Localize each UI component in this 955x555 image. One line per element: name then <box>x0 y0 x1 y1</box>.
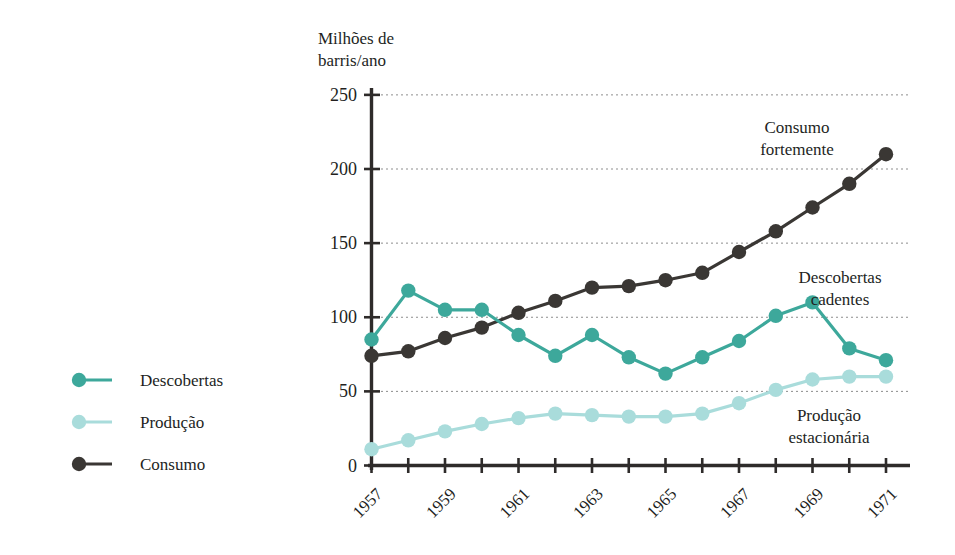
data-point <box>438 331 452 345</box>
data-point <box>732 334 746 348</box>
data-point <box>842 369 856 383</box>
data-point <box>364 332 378 346</box>
data-point <box>475 303 489 317</box>
legend-item-consumo[interactable]: Consumo <box>72 455 205 474</box>
y-tick-label-100: 100 <box>330 307 357 327</box>
data-point <box>401 433 415 447</box>
legend-swatch-marker <box>72 457 86 471</box>
y-axis-tick-labels: 050100150200250 <box>330 85 357 476</box>
data-point <box>732 396 746 410</box>
data-point <box>805 200 819 214</box>
data-point <box>695 350 709 364</box>
data-point <box>364 442 378 456</box>
data-point <box>695 266 709 280</box>
data-point <box>879 147 893 161</box>
data-point <box>438 424 452 438</box>
data-point <box>401 283 415 297</box>
descobertas-annotation-line1: Descobertas <box>798 268 881 287</box>
x-tick-label-1965: 1965 <box>643 484 680 521</box>
data-point <box>475 320 489 334</box>
legend-item-produ--o[interactable]: Produção <box>72 413 204 432</box>
consumo-annotation-line2: fortemente <box>760 140 834 159</box>
y-tick-label-50: 50 <box>339 381 357 401</box>
data-point <box>658 409 672 423</box>
y-tick-label-200: 200 <box>330 159 357 179</box>
data-point <box>805 372 819 386</box>
legend-label: Consumo <box>140 455 205 474</box>
series-line <box>372 154 887 356</box>
producao-annotation-line2: estacionária <box>788 428 870 447</box>
consumo-annotation: Consumo fortemente <box>760 118 834 159</box>
chart-container: Milhões de barris/ano 050100150200250 19… <box>0 0 955 555</box>
data-point <box>548 349 562 363</box>
producao-annotation: Produção estacionária <box>788 406 870 447</box>
data-point <box>732 245 746 259</box>
legend-swatch-marker <box>72 373 86 387</box>
y-axis-title-line1: Milhões de <box>318 29 394 48</box>
data-point <box>438 303 452 317</box>
data-point <box>511 306 525 320</box>
data-point <box>879 369 893 383</box>
chart-legend: DescobertasProduçãoConsumo <box>72 371 223 474</box>
data-point <box>879 353 893 367</box>
data-point <box>695 406 709 420</box>
y-tick-label-250: 250 <box>330 85 357 105</box>
data-point <box>622 350 636 364</box>
x-tick-label-1971: 1971 <box>863 484 900 521</box>
data-point <box>585 280 599 294</box>
data-point <box>585 408 599 422</box>
data-point <box>658 273 672 287</box>
data-point <box>475 417 489 431</box>
legend-swatch-marker <box>72 415 86 429</box>
data-point <box>548 294 562 308</box>
data-point <box>658 366 672 380</box>
legend-item-descobertas[interactable]: Descobertas <box>72 371 223 390</box>
legend-label: Descobertas <box>140 371 223 390</box>
x-tick-label-1967: 1967 <box>716 484 754 522</box>
x-tick-label-1963: 1963 <box>569 484 606 521</box>
descobertas-annotation-line2: cadentes <box>811 290 870 309</box>
data-point <box>769 309 783 323</box>
descobertas-annotation: Descobertas cadentes <box>798 268 881 309</box>
y-tick-label-150: 150 <box>330 233 357 253</box>
series-consumo <box>364 147 893 363</box>
consumo-annotation-line1: Consumo <box>764 118 829 137</box>
data-point <box>622 279 636 293</box>
y-tick-label-0: 0 <box>348 456 357 476</box>
x-tick-label-1969: 1969 <box>790 484 827 521</box>
data-point <box>622 409 636 423</box>
x-axis-tick-labels: 19571959196119631965196719691971 <box>349 484 901 522</box>
data-point <box>842 177 856 191</box>
x-tick-label-1959: 1959 <box>422 484 459 521</box>
legend-label: Produção <box>140 413 204 432</box>
x-tick-label-1957: 1957 <box>349 484 387 522</box>
producao-annotation-line1: Produção <box>797 406 861 425</box>
data-point <box>769 383 783 397</box>
data-point <box>364 349 378 363</box>
y-axis-title-line2: barris/ano <box>318 51 386 70</box>
data-point <box>511 328 525 342</box>
x-tick-label-1961: 1961 <box>496 484 533 521</box>
chart-svg: Milhões de barris/ano 050100150200250 19… <box>0 0 955 555</box>
data-point <box>769 224 783 238</box>
data-point <box>548 406 562 420</box>
data-point <box>511 411 525 425</box>
data-point <box>401 344 415 358</box>
data-point <box>585 328 599 342</box>
data-point <box>842 341 856 355</box>
